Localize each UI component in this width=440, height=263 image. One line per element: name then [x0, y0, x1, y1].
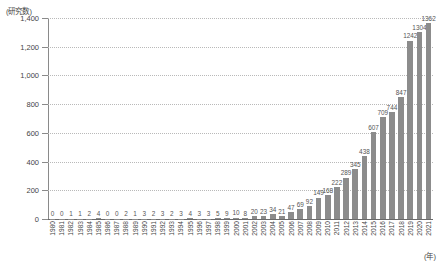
bar-rect	[343, 178, 349, 219]
bar-wrapper: 3	[204, 219, 213, 220]
bar-value-label: 5	[216, 211, 220, 217]
y-axis-tick-label: 1,200	[0, 43, 39, 52]
bar-rect	[114, 219, 120, 220]
bar-item: 23	[259, 18, 268, 219]
bar-item: 1242	[406, 18, 415, 219]
x-axis-tick-label: 1987	[113, 221, 120, 236]
bar-wrapper: 0	[48, 219, 57, 220]
bar-wrapper: 2	[167, 219, 176, 220]
bar-item: 4	[186, 18, 195, 219]
y-axis-tick	[42, 190, 48, 191]
y-axis-tick-label: 600	[0, 129, 39, 138]
x-axis-tick-label: 2006	[288, 221, 295, 236]
bar-wrapper: 47	[286, 212, 295, 219]
bar-rect	[288, 212, 294, 219]
x-axis-tick-label: 2003	[260, 221, 267, 236]
bar-wrapper: 222	[332, 187, 341, 219]
x-axis-tick-slot: 1989	[131, 221, 140, 257]
bar-wrapper: 92	[305, 206, 314, 219]
x-axis-tick-slot: 2018	[397, 221, 406, 257]
x-axis-tick-label: 1996	[196, 221, 203, 236]
bar-item: 607	[369, 18, 378, 219]
bar-value-label: 0	[115, 211, 119, 217]
x-axis-tick-slot: 2007	[296, 221, 305, 257]
bar-rect	[233, 218, 239, 219]
bar-wrapper: 69	[296, 209, 305, 219]
bar-rect	[96, 218, 102, 219]
bar-wrapper: 744	[387, 112, 396, 219]
x-axis-tick-slot: 1997	[204, 221, 213, 257]
bar-rect	[151, 219, 157, 220]
bar-item: 21	[277, 18, 286, 219]
x-axis-unit-label: (年)	[424, 250, 436, 261]
x-axis-tick-label: 2005	[278, 221, 285, 236]
x-axis-tick-labels: 1980198119821983198419851986198719881989…	[48, 221, 433, 257]
x-axis-tick-slot: 2004	[268, 221, 277, 257]
x-axis-tick-slot: 1984	[85, 221, 94, 257]
bar-item: 3	[140, 18, 149, 219]
bar-value-label: 34	[269, 207, 276, 213]
bar-rect	[224, 218, 230, 219]
x-axis-tick-slot: 1992	[158, 221, 167, 257]
bar-value-label: 8	[243, 211, 247, 217]
bar-rect	[187, 218, 193, 219]
bar-item: 3	[158, 18, 167, 219]
x-axis-tick-slot: 2014	[360, 221, 369, 257]
bar-wrapper: 1	[76, 219, 85, 220]
bar-rect	[389, 112, 395, 219]
bar-rect	[307, 206, 313, 219]
bar-wrapper: 3	[140, 219, 149, 220]
x-axis-tick-label: 2013	[352, 221, 359, 236]
bar-value-label: 69	[297, 202, 304, 208]
bar-wrapper: 9	[222, 218, 231, 219]
bar-rect	[334, 187, 340, 219]
x-axis-tick-slot: 1985	[94, 221, 103, 257]
bar-rect	[325, 195, 331, 219]
y-axis-tick-label: 0	[0, 215, 39, 224]
x-axis-tick-label: 1984	[86, 221, 93, 236]
bar-wrapper: 438	[360, 156, 369, 219]
x-axis-tick-slot: 1990	[140, 221, 149, 257]
x-axis-tick-label: 2008	[306, 221, 313, 236]
bar-wrapper: 1362	[424, 23, 433, 219]
x-axis-tick-slot: 1995	[186, 221, 195, 257]
bar-wrapper: 21	[277, 216, 286, 219]
x-axis-tick-slot: 2016	[378, 221, 387, 257]
bar-rect	[77, 219, 83, 220]
x-axis-tick-slot: 2013	[351, 221, 360, 257]
x-axis-tick-slot: 2005	[277, 221, 286, 257]
bar-value-label: 21	[278, 209, 285, 215]
bar-chart: (研究数) 0011240021323234335910820233421476…	[0, 0, 440, 263]
x-axis-tick-slot: 1986	[103, 221, 112, 257]
x-axis-tick-label: 2019	[407, 221, 414, 236]
y-axis-tick-label: 800	[0, 100, 39, 109]
bar-rect	[316, 198, 322, 219]
x-axis-tick-slot: 2015	[369, 221, 378, 257]
bar-value-label: 3	[198, 211, 202, 217]
bar-wrapper: 2	[121, 219, 130, 220]
y-axis-tick-label: 200	[0, 186, 39, 195]
x-axis-tick-label: 2016	[379, 221, 386, 236]
bar-rect	[270, 214, 276, 219]
bar-rect	[59, 219, 65, 220]
y-axis-tick-label: 400	[0, 158, 39, 167]
x-axis-tick-label: 1994	[177, 221, 184, 236]
bar-wrapper: 345	[351, 169, 360, 219]
x-axis-tick-slot: 2011	[332, 221, 341, 257]
bar-value-label: 0	[60, 211, 64, 217]
bar-value-label: 1	[78, 211, 82, 217]
bar-value-label: 3	[179, 211, 183, 217]
y-axis-tick	[42, 104, 48, 105]
x-axis-tick-label: 1991	[150, 221, 157, 236]
bar-item: 5	[213, 18, 222, 219]
x-axis-tick-slot: 1988	[121, 221, 130, 257]
bar-wrapper: 149	[314, 198, 323, 219]
bar-rect	[123, 219, 129, 220]
x-axis-tick-label: 2018	[398, 221, 405, 236]
x-axis-tick-slot: 1983	[76, 221, 85, 257]
bar-value-label: 1	[69, 211, 73, 217]
bar-wrapper: 1304	[415, 32, 424, 219]
x-axis-tick-slot: 2010	[323, 221, 332, 257]
x-axis-tick-label: 2021	[425, 221, 432, 236]
bar-wrapper: 4	[94, 218, 103, 219]
